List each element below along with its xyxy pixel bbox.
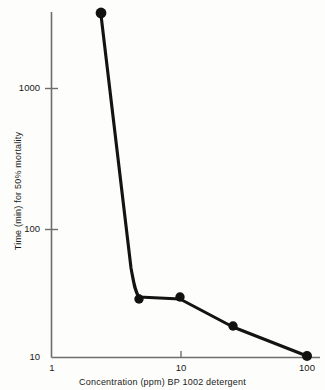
x-tick-label-1: 1: [32, 362, 72, 373]
y-axis-title: Time (min) for 50% mortality: [13, 76, 23, 306]
y-tick-label-10: 10: [0, 351, 40, 362]
data-curve: [101, 15, 307, 356]
data-point: [96, 8, 107, 19]
chart-plot-area: [0, 0, 325, 390]
chart-figure: 1000 100 10 1 10 100 Concentration (ppm)…: [0, 0, 325, 390]
x-tick-label-10: 10: [161, 362, 201, 373]
x-tick-label-100: 100: [287, 362, 325, 373]
data-point: [175, 292, 184, 301]
data-point: [228, 321, 237, 330]
x-axis-title: Concentration (ppm) BP 1002 detergent: [0, 377, 325, 387]
data-point: [302, 351, 312, 361]
data-point: [134, 294, 143, 303]
